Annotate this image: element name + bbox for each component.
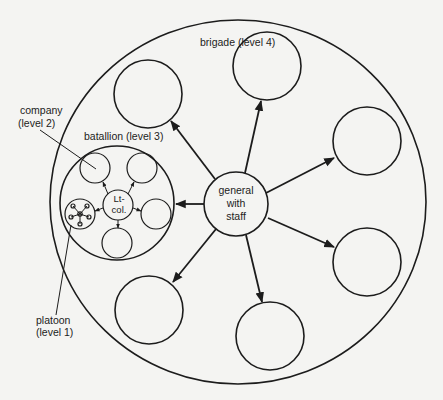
company-label-line1: company	[20, 104, 63, 116]
arrow-to-top-left	[171, 121, 215, 179]
general-label-line2: with	[226, 197, 246, 209]
platoon-label-line1: platoon	[36, 314, 71, 326]
company-circle-bottom	[102, 228, 132, 258]
ltcol-arrow-left	[95, 208, 103, 211]
general-label-line1: general	[218, 184, 253, 196]
brigade-label: brigade (level 4)	[200, 36, 275, 48]
platoon-leader-line	[56, 225, 71, 315]
diagram-canvas: brigade (level 4) batallion (level 3) ge…	[0, 0, 443, 400]
ltcol-label-line2: col.	[112, 204, 127, 215]
company-circle-top-right	[127, 153, 157, 183]
battalion-circle-top-left	[114, 60, 182, 128]
battalion-circle-bottom-left	[115, 276, 183, 344]
platoon-detail	[69, 204, 91, 226]
battalion-circle-right-lower	[333, 228, 401, 296]
hierarchy-diagram: brigade (level 4) batallion (level 3) ge…	[0, 0, 443, 400]
general-label-line3: staff	[226, 210, 246, 222]
arrow-to-bottom	[246, 235, 262, 302]
platoon-label-line2: (level 1)	[36, 326, 73, 338]
battalion-label: batallion (level 3)	[84, 130, 163, 142]
arrow-to-right-upper	[266, 158, 334, 193]
arrow-to-bottom-left	[173, 229, 216, 282]
company-label-line2: (level 2)	[18, 117, 55, 129]
battalion-circle-bottom	[236, 302, 304, 370]
arrow-to-top	[245, 101, 261, 173]
ltcol-arrow-top-left	[103, 182, 108, 194]
ltcol-label-line1: Lt-	[113, 193, 124, 204]
ltcol-arrow-right	[133, 208, 141, 211]
company-circle-right	[141, 199, 171, 229]
ltcol-arrow-top-right	[128, 182, 134, 194]
battalion-circle-right-upper	[333, 107, 401, 175]
arrow-to-right-lower	[268, 218, 334, 247]
